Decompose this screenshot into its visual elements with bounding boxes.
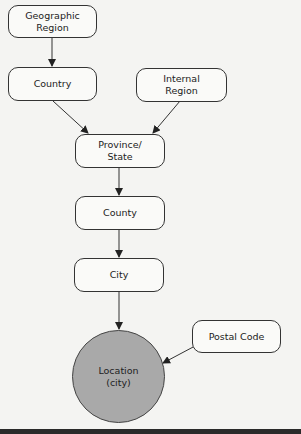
node-label: Location (city)	[98, 365, 138, 389]
node-label: Internal Region	[163, 73, 200, 97]
node-geographic-region: Geographic Region	[8, 5, 97, 38]
node-city: City	[74, 258, 164, 292]
node-county: County	[75, 196, 165, 230]
node-label: City	[110, 269, 129, 281]
node-label: Postal Code	[209, 331, 265, 343]
node-postal-code: Postal Code	[192, 320, 281, 353]
node-label: County	[103, 207, 137, 219]
edge-postal-code-to-location	[163, 346, 195, 363]
node-province-state: Province/ State	[75, 134, 165, 168]
node-location-city: Location (city)	[72, 330, 165, 423]
node-label: Geographic Region	[25, 10, 80, 34]
node-label: Province/ State	[98, 139, 142, 163]
edge-internal-region-to-province	[153, 101, 180, 133]
node-internal-region: Internal Region	[136, 68, 227, 102]
node-country: Country	[8, 67, 97, 101]
page-edge-divider	[0, 429, 301, 434]
edge-country-to-province	[53, 101, 88, 133]
node-label: Country	[34, 78, 72, 90]
